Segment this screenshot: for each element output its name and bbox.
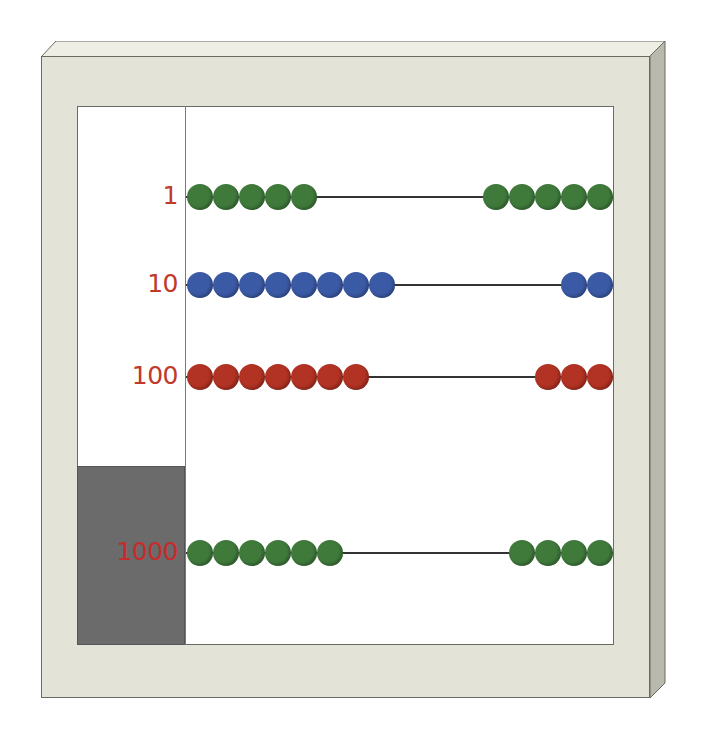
bead[interactable] [587, 364, 613, 390]
bead[interactable] [239, 184, 265, 210]
bead[interactable] [509, 184, 535, 210]
bead[interactable] [291, 272, 317, 298]
bead[interactable] [291, 540, 317, 566]
bead[interactable] [239, 364, 265, 390]
bead[interactable] [561, 540, 587, 566]
bead[interactable] [317, 540, 343, 566]
row-label-hundreds: 100 [78, 361, 178, 391]
bead[interactable] [265, 272, 291, 298]
bead[interactable] [213, 272, 239, 298]
bead[interactable] [343, 272, 369, 298]
bead[interactable] [239, 540, 265, 566]
row-label-tens: 10 [78, 269, 178, 299]
bead[interactable] [187, 364, 213, 390]
bead[interactable] [535, 540, 561, 566]
bead[interactable] [587, 272, 613, 298]
frame-top-face [41, 41, 665, 57]
row-label-thousands: 1000 [78, 537, 178, 567]
bead[interactable] [213, 364, 239, 390]
bead[interactable] [343, 364, 369, 390]
bead[interactable] [561, 364, 587, 390]
bead[interactable] [239, 272, 265, 298]
row-label-ones: 1 [78, 181, 178, 211]
bead[interactable] [535, 184, 561, 210]
bead[interactable] [187, 184, 213, 210]
bead[interactable] [561, 272, 587, 298]
bead[interactable] [187, 540, 213, 566]
bead[interactable] [561, 184, 587, 210]
bead[interactable] [509, 540, 535, 566]
bead[interactable] [265, 364, 291, 390]
bead[interactable] [369, 272, 395, 298]
bead[interactable] [291, 184, 317, 210]
bead[interactable] [535, 364, 561, 390]
bead[interactable] [587, 540, 613, 566]
bead[interactable] [587, 184, 613, 210]
bead[interactable] [291, 364, 317, 390]
bead[interactable] [187, 272, 213, 298]
bead[interactable] [483, 184, 509, 210]
bead[interactable] [265, 540, 291, 566]
bead[interactable] [317, 364, 343, 390]
bead[interactable] [317, 272, 343, 298]
bead[interactable] [213, 540, 239, 566]
bead[interactable] [265, 184, 291, 210]
bead[interactable] [213, 184, 239, 210]
frame-side-face [650, 41, 666, 698]
